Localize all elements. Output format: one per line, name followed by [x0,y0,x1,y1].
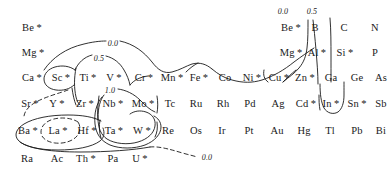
element-be: Be * [22,22,42,33]
element-ga: Ga [325,72,338,83]
contour-line-bottom-dashed-0-0 [150,147,197,157]
element-ac: Ac [51,153,64,164]
element-zn: Zn * [295,72,315,83]
contour-line-cd-in-divider [319,95,320,110]
element-ti: Ti * [79,72,96,83]
element-ag: Ag [271,98,284,109]
contour-line-ni-cu-divider [264,70,268,82]
element-c: C [340,22,347,33]
element-pb: Pb [351,125,363,136]
contour-line-0-0-left [44,41,212,73]
element-sb: Sb [375,98,387,109]
element-mg: Mg * [22,47,45,58]
element-sr: Sr * [21,98,39,109]
element-v: V * [106,72,122,83]
element-ta: Ta * [105,125,124,136]
element-al: Al * [308,47,327,58]
contour-label-mid-10: 1.0 [105,86,115,95]
element-co: Co [219,72,232,83]
contour-label-left-00: 0.0 [108,39,118,48]
element-hf: Hf * [77,125,96,136]
periodic-table-contour-figure: Be *Mg *Ca *Sc *Ti *V *Cr *Mn *Fe *CoNi … [0,0,391,176]
contour-line-mo-tc-divider [157,96,158,113]
element-n: N [371,22,379,33]
element-os: Os [190,125,202,136]
element-b: B [311,22,318,33]
element-au: Au [270,125,283,136]
element-cd: Cd * [296,98,316,109]
element-re: Re [162,125,174,136]
element-mg2: Mg * [280,47,303,58]
element-in: In * [323,98,340,109]
element-zr: Zr * [76,98,94,109]
element-ni: Ni * [243,72,262,83]
element-ge: Ge [351,72,364,83]
element-nb: Nb * [103,98,124,109]
element-tc: Tc [165,98,176,109]
element-hg: Hg [297,125,310,136]
contour-label-right-00: 0.0 [278,7,288,16]
element-be2: Be * [281,22,301,33]
element-fe: Fe * [190,72,209,83]
element-sn: Sn * [347,98,366,109]
element-ca: Ca * [22,72,42,83]
contour-label-bottom-00: 0.0 [202,153,212,162]
element-mo: Mo * [132,98,155,109]
element-ra: Ra [21,153,33,164]
element-u: U * [132,153,148,164]
element-si: Si * [337,47,354,58]
element-ba: Ba * [18,125,38,136]
contour-line-hf-ta-boundary [99,120,101,138]
element-pa: Pa [108,153,119,164]
element-rh: Rh [217,98,230,109]
element-mn: Mn * [161,72,184,83]
element-bi: Bi [376,125,386,136]
element-pt: Pt [244,125,253,136]
element-p: P [372,47,378,58]
element-y: Y * [49,98,65,109]
element-w: W * [133,125,151,136]
element-la: La * [48,125,67,136]
element-tl: Tl [325,125,335,136]
contour-label-left-05: 0.5 [94,54,104,63]
element-cu: Cu * [269,72,289,83]
element-ir: Ir [218,125,225,136]
element-pd: Pd [244,98,256,109]
element-ru: Ru [190,98,203,109]
element-cr: Cr * [135,72,154,83]
contour-label-right-05: 0.5 [307,7,317,16]
element-sc: Sc * [52,72,71,83]
element-th: Th * [76,153,96,164]
contour-overlay [0,0,391,176]
element-as: As [375,72,387,83]
